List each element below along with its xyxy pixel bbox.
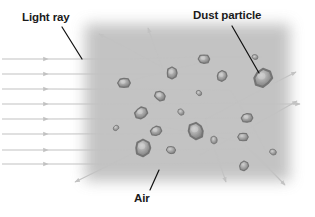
label-light-ray: Light ray (22, 11, 70, 24)
particle-body (211, 136, 217, 144)
dust-particle-15 (136, 140, 150, 157)
particle-highlight (219, 73, 224, 77)
particle-highlight (138, 143, 145, 149)
particle-body (238, 133, 249, 140)
dust-particle-1 (118, 78, 131, 87)
particle-body (166, 147, 175, 154)
particle-highlight (191, 126, 198, 132)
diagram-canvas: Light ray Dust particle Air (0, 0, 315, 217)
dust-particle-13 (211, 136, 217, 144)
label-dust-particle: Dust particle (193, 9, 261, 22)
leader-line-light_ray (62, 27, 82, 59)
particle-highlight (169, 70, 174, 74)
particle-highlight (137, 109, 142, 114)
dust-particle-2 (167, 67, 177, 79)
particle-highlight (257, 73, 265, 80)
dust-particle-12 (241, 114, 253, 123)
incoming-light-rays (2, 59, 48, 164)
particle-highlight (201, 56, 206, 60)
particle-highlight (157, 93, 162, 97)
particle-highlight (121, 80, 126, 84)
dust-particle-3 (198, 55, 210, 63)
particle-highlight (244, 115, 249, 119)
particle-body (252, 55, 258, 60)
air-medium-region (85, 24, 290, 181)
dust-particle-11 (189, 123, 203, 140)
diagram-graphics (0, 0, 315, 217)
label-air: Air (134, 192, 150, 205)
dust-particle-5 (252, 55, 258, 60)
particle-highlight (153, 128, 158, 132)
dust-particle-14 (238, 133, 249, 140)
dust-particle-16 (166, 147, 175, 154)
air-slab (85, 24, 290, 181)
